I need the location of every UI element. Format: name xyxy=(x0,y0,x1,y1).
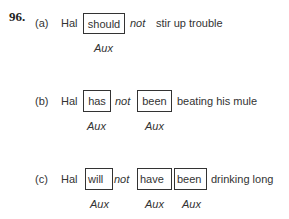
example-label: (b) xyxy=(35,95,48,107)
predicate: beating his mule xyxy=(177,95,257,107)
aux-label: Aux xyxy=(87,120,106,132)
aux-label: Aux xyxy=(182,198,201,210)
negation: not xyxy=(130,17,145,29)
aux-box: has xyxy=(83,90,111,112)
subject: Hal xyxy=(61,173,78,185)
subject: Hal xyxy=(61,17,78,29)
aux-box: will xyxy=(85,168,113,190)
example-label: (c) xyxy=(35,173,48,185)
example-number: 96. xyxy=(9,9,25,25)
negation: not xyxy=(114,173,129,185)
aux-box: been xyxy=(137,90,172,112)
aux-label: Aux xyxy=(145,120,164,132)
predicate: stir up trouble xyxy=(156,17,223,29)
negation: not xyxy=(115,95,130,107)
subject: Hal xyxy=(61,95,78,107)
aux-box: been xyxy=(174,168,207,190)
aux-label: Aux xyxy=(145,198,164,210)
example-label: (a) xyxy=(35,17,48,29)
predicate: drinking long xyxy=(211,173,273,185)
aux-box: should xyxy=(83,13,125,34)
aux-label: Aux xyxy=(94,42,113,54)
aux-box: have xyxy=(137,168,172,190)
aux-label: Aux xyxy=(90,198,109,210)
